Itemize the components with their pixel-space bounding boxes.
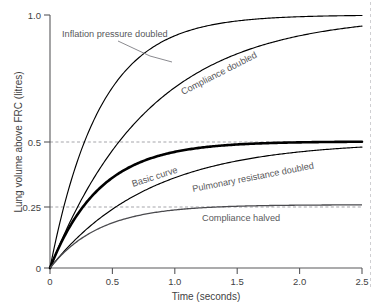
annotation-compliance-doubled: Compliance doubled [179,50,258,97]
annotation-inflation-pressure-doubled: Inflation pressure doubled [62,29,168,39]
x-tick-label-0-5: 0.5 [106,276,119,287]
y-tick-label-0-5: 0.5 [28,137,41,148]
x-tick-label-0: 0 [47,276,52,287]
y-tick-label-0: 0 [36,263,41,274]
y-tick-label-1-0: 1.0 [28,10,41,21]
y-axis-title: Lung volume above FRC (litres) [13,71,24,212]
x-tick-label-2-5: 2.5 [355,276,368,287]
y-tick-label-0-25: 0.25 [23,202,42,213]
x-tick-label-1-0: 1.0 [168,276,181,287]
lung-volume-time-chart: 1.0 0.5 0.25 0 0 0.5 1.0 1.5 2.0 2.5 Tim… [0,0,375,305]
annotation-pulmonary-resistance-doubled: Pulmonary resistance doubled [191,161,314,194]
x-tick-label-2-0: 2.0 [293,276,306,287]
x-axis-title: Time (seconds) [172,291,241,302]
leader-line-inflation [118,41,172,62]
annotation-compliance-halved: Compliance halved [202,213,280,223]
chart-figure: 1.0 0.5 0.25 0 0 0.5 1.0 1.5 2.0 2.5 Tim… [0,0,375,305]
x-tick-label-1-5: 1.5 [231,276,244,287]
